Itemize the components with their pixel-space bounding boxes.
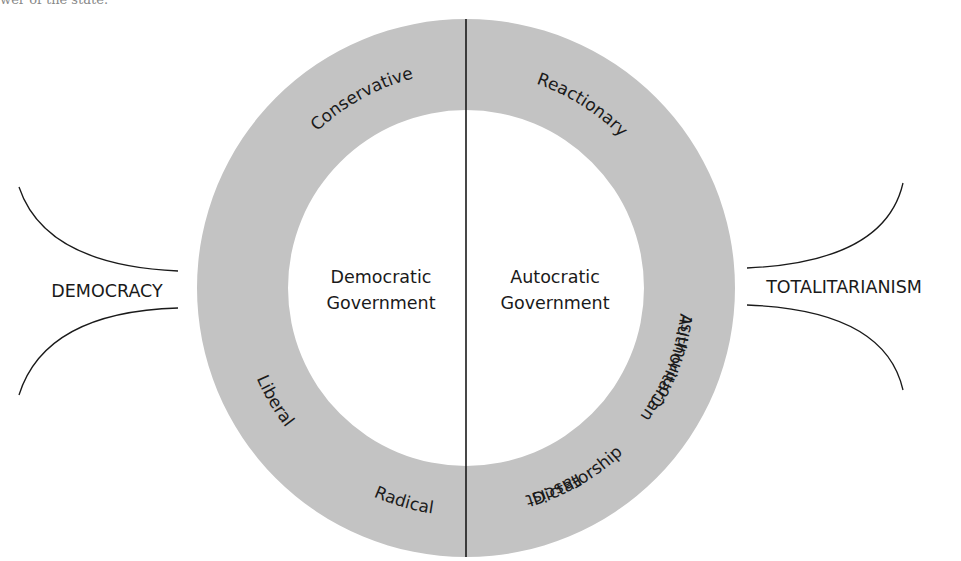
democratic-government-line2: Government bbox=[326, 293, 435, 313]
autocratic-government-line2: Government bbox=[500, 293, 609, 313]
democracy-label: DEMOCRACY bbox=[51, 281, 163, 301]
democracy-upper-curve bbox=[19, 187, 178, 271]
totalitarianism-label: TOTALITARIANISM bbox=[765, 277, 922, 297]
democracy-lower-curve bbox=[19, 308, 178, 395]
political-spectrum-diagram: DEMOCRACY TOTALITARIANISM Democratic Gov… bbox=[0, 0, 961, 561]
totalitarianism-lower-curve bbox=[747, 305, 903, 390]
autocratic-government-line1: Autocratic bbox=[510, 267, 600, 287]
democratic-government-line1: Democratic bbox=[331, 267, 432, 287]
totalitarianism-upper-curve bbox=[747, 183, 903, 268]
